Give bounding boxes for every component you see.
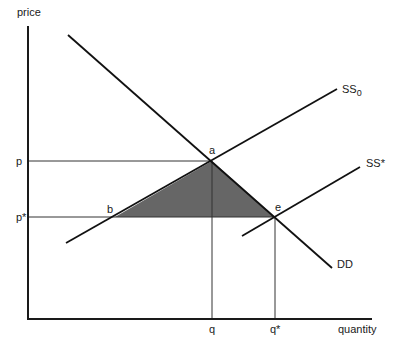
curve-label-ss-star: SS* xyxy=(366,157,386,169)
y-axis-label: price xyxy=(17,6,41,18)
curve-label-dd: DD xyxy=(337,258,353,270)
point-e-label: e xyxy=(275,201,281,213)
point-a-label: a xyxy=(209,144,216,156)
tick-p: p xyxy=(16,155,22,167)
demand-curve-dd xyxy=(68,35,332,268)
curve-label-ss0-sub: 0 xyxy=(357,88,362,98)
curve-label-ss0-main: SS xyxy=(342,83,357,95)
curve-label-ss0: SS0 xyxy=(342,83,362,98)
x-axis-label: quantity xyxy=(338,323,377,335)
tick-p-star: p* xyxy=(16,211,27,223)
supply-demand-diagram: price quantity p p* q q* a b e SS0 SS* D… xyxy=(0,0,397,346)
tick-q: q xyxy=(209,323,215,335)
tick-q-star: q* xyxy=(270,323,281,335)
supply-curve-ss-star xyxy=(242,167,360,236)
point-b-label: b xyxy=(107,203,113,215)
supply-curve-ss0 xyxy=(66,89,337,243)
